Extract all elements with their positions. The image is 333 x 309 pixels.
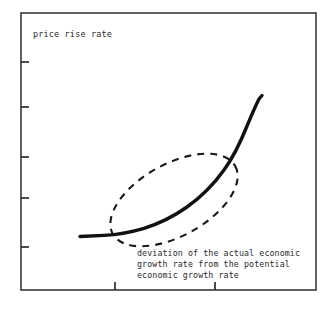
caption-line-2: growth rate from the potential <box>137 259 290 269</box>
caption-line-1: deviation of the actual economic <box>137 248 300 258</box>
phillips-curve-figure: price rise rate deviation of the actual … <box>0 0 333 309</box>
caption-line-3: economic growth rate <box>137 270 239 280</box>
y-axis-label: price rise rate <box>33 29 112 39</box>
